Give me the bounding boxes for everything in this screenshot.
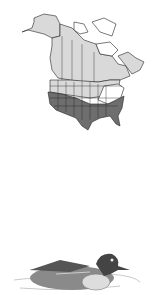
- range-map: [0, 0, 156, 150]
- duck-body: [30, 254, 130, 290]
- duck-illustration: [0, 230, 156, 295]
